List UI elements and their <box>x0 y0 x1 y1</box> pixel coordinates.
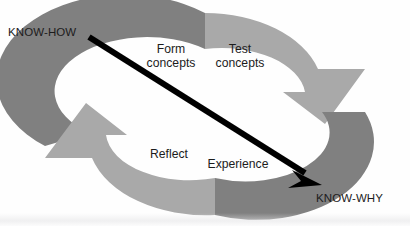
label-form-concepts-line2: concepts <box>140 57 202 71</box>
label-reflect: Reflect <box>138 148 200 162</box>
label-know-how: KNOW-HOW <box>8 26 76 39</box>
label-test-concepts: Test concepts <box>209 43 271 70</box>
label-test-concepts-line2: concepts <box>209 57 271 71</box>
label-form-concepts-line1: Form <box>140 43 202 57</box>
label-test-concepts-line1: Test <box>209 43 271 57</box>
label-reflect-line1: Reflect <box>138 148 200 162</box>
label-experience-line1: Experience <box>198 158 278 172</box>
label-experience: Experience <box>198 158 278 172</box>
label-know-why: KNOW-WHY <box>316 192 383 205</box>
label-form-concepts: Form concepts <box>140 43 202 70</box>
diagram-canvas: KNOW-HOW KNOW-WHY Form concepts Test con… <box>0 0 410 226</box>
